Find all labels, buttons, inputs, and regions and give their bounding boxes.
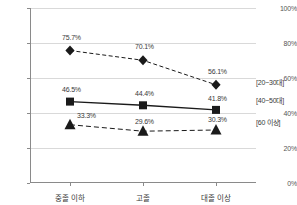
series-marker-40-50-p2 — [212, 106, 220, 114]
y-axis-tick-80: 80% — [271, 40, 297, 47]
series-marker-20-30-p1 — [138, 55, 147, 65]
x-axis-label-high-school: 고졸 — [108, 194, 178, 203]
series-marker-60plus-p2 — [211, 124, 222, 135]
data-label-20-30-p2: 56.1% — [208, 68, 227, 75]
x-axis-tickmark-1 — [143, 183, 144, 186]
y-axis-tick-0: 0% — [271, 180, 297, 187]
series-marker-40-50-p0 — [66, 98, 74, 106]
data-label-20-30-p1: 70.1% — [135, 43, 154, 50]
data-label-60plus-p0: 33.3% — [77, 112, 96, 119]
series-marker-60plus-p1 — [138, 125, 149, 136]
series-marker-20-30-p0 — [65, 46, 74, 56]
data-label-60plus-p2: 30.3% — [208, 116, 227, 123]
data-label-40-50-p2: 41.8% — [208, 95, 227, 102]
y-axis-tick-100: 100% — [271, 5, 297, 12]
data-label-40-50-p1: 44.4% — [135, 90, 154, 97]
data-label-60plus-p1: 29.6% — [135, 118, 154, 125]
series-marker-20-30-p2 — [211, 80, 220, 90]
plot-area: 75.7% 70.1% 56.1% 46.5% 44.4% 41.8% 33.3… — [30, 8, 256, 183]
y-axis-tick-20: 20% — [271, 145, 297, 152]
data-label-20-30-p0: 75.7% — [62, 34, 81, 41]
y-axis-tickmark-0 — [27, 183, 30, 184]
y-axis-tick-40: 40% — [271, 110, 297, 117]
data-label-40-50-p0: 46.5% — [62, 86, 81, 93]
series-marker-60plus-p0 — [65, 119, 76, 130]
legend-item-60plus: [60 이상] — [256, 119, 280, 127]
x-axis-tickmark-2 — [216, 183, 217, 186]
x-axis-label-middle-school: 중졸 이하 — [35, 194, 105, 203]
line-chart: 100% 80% 60% 40% 20% 0% — [0, 0, 297, 205]
series-marker-40-50-p1 — [139, 101, 147, 109]
x-axis-label-college: 대졸 이상 — [181, 194, 251, 203]
legend-item-20-30: [20~30대] — [256, 79, 284, 87]
x-axis-tickmark-0 — [70, 183, 71, 186]
legend-item-40-50: [40~50대] — [256, 97, 284, 105]
